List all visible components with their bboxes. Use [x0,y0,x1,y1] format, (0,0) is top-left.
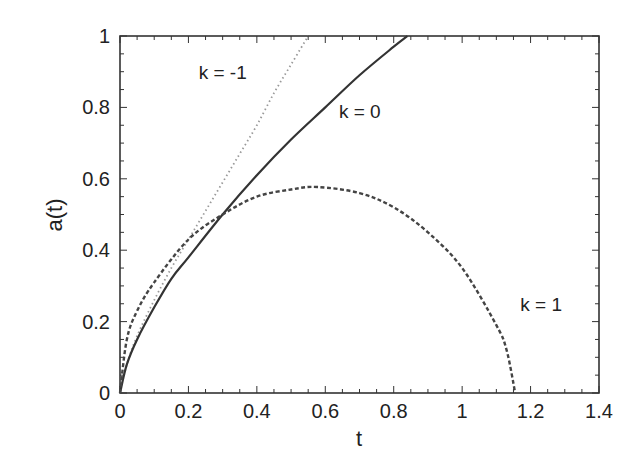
axis-ticks [120,36,599,393]
series-layer [120,36,515,393]
annotations: k = -1k = 0k = 1 [199,62,562,315]
y-axis-title: a(t) [42,199,67,232]
x-tick-label: 0 [114,400,125,422]
y-tick-label: 0.8 [82,96,110,118]
x-axis-title: t [356,426,362,451]
plot-frame [120,36,599,393]
chart: 00.20.40.60.811.21.4 00.20.40.60.81 k = … [0,0,633,472]
x-tick-label: 0.6 [311,400,339,422]
x-tick-labels: 00.20.40.60.811.21.4 [114,400,612,422]
series-line-k-1 [120,36,308,393]
y-tick-labels: 00.20.40.60.81 [82,25,110,404]
series-annotation: k = 0 [339,101,381,122]
x-tick-label: 1 [457,400,468,422]
y-tick-label: 1 [99,25,110,47]
y-tick-label: 0.6 [82,168,110,190]
y-tick-label: 0.2 [82,311,110,333]
plot-border [120,36,599,393]
y-tick-label: 0.4 [82,239,110,261]
series-annotation: k = -1 [199,62,247,83]
x-tick-label: 1.4 [585,400,613,422]
series-line-k1 [120,187,515,393]
series-annotation: k = 1 [520,294,562,315]
x-tick-label: 0.4 [243,400,271,422]
x-tick-label: 1.2 [517,400,545,422]
x-tick-label: 0.8 [380,400,408,422]
x-tick-label: 0.2 [175,400,203,422]
y-tick-label: 0 [99,382,110,404]
series-line-k0 [120,36,407,393]
